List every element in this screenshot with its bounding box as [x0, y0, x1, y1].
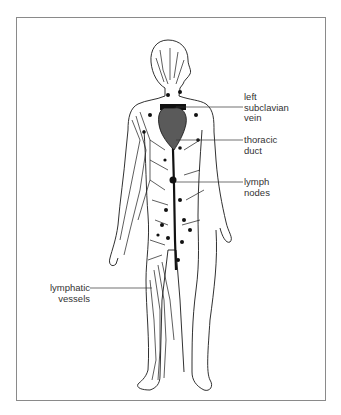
body-outline — [109, 40, 231, 390]
label-lymphatic-vessels: lymphatic vessels — [50, 283, 90, 304]
label-thoracic-duct: thoracic duct — [244, 135, 277, 156]
heart — [159, 104, 187, 150]
lymphatic-vessels-network — [120, 48, 204, 380]
label-line: duct — [244, 146, 277, 157]
label-line: nodes — [244, 188, 270, 199]
label-line: lymphatic — [50, 283, 90, 294]
body-figure — [0, 0, 341, 415]
label-line: left — [244, 92, 289, 103]
label-line: thoracic — [244, 135, 277, 146]
label-line: vein — [244, 113, 289, 124]
label-lymph-nodes: lymph nodes — [244, 177, 270, 198]
label-left-subclavian-vein: left subclavian vein — [244, 92, 289, 124]
label-line: lymph — [244, 177, 270, 188]
label-line: vessels — [50, 294, 90, 305]
